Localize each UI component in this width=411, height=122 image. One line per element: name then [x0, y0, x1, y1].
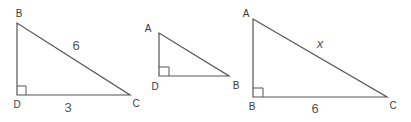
vertex-label-A: A [243, 9, 250, 19]
side-label-BC: 6 [311, 102, 318, 115]
similar-triangles-diagram: B D C 6 3 A D B A B C x 6 [0, 0, 411, 122]
vertex-label-B: B [249, 102, 256, 112]
right-angle-marker-D [17, 86, 26, 95]
side-label-AC: x [317, 37, 324, 50]
triangle-ABC [253, 19, 387, 97]
side-label-DC: 3 [64, 101, 71, 114]
vertex-label-D: D [151, 82, 158, 92]
triangle-BDC-outline [17, 23, 130, 95]
side-label-BC: 6 [72, 39, 79, 52]
triangle-ADB [159, 33, 229, 76]
vertex-label-B: B [233, 81, 240, 91]
triangle-BDC [17, 23, 130, 95]
triangle-ABC-outline [253, 19, 387, 97]
vertex-label-C: C [132, 99, 139, 109]
right-angle-marker-B [253, 88, 263, 97]
right-angle-marker-D [159, 67, 169, 76]
vertex-label-C: C [389, 101, 396, 111]
vertex-label-A: A [145, 24, 152, 34]
vertex-label-D: D [13, 100, 20, 110]
vertex-label-B: B [16, 9, 23, 19]
triangles-svg [0, 0, 411, 122]
